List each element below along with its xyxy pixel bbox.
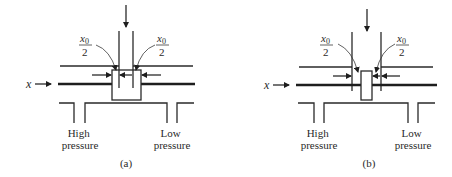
svg-text:x0: x0	[320, 32, 330, 46]
caption-a: (a)	[120, 157, 133, 170]
svg-text:2: 2	[323, 46, 329, 58]
svg-text:x0: x0	[79, 32, 89, 46]
leader-curve-right	[376, 44, 395, 72]
caption-b: (b)	[363, 157, 376, 170]
leader-curve-left	[338, 44, 358, 72]
opening-label-left: x0 2	[320, 32, 333, 58]
spool-land	[361, 71, 372, 100]
low-pressure-label: Low pressure	[154, 127, 191, 151]
panel-a: x x0 2 x0 2 High pressure Low pressure (…	[25, 5, 195, 170]
panel-b: x x0 2 x0 2 High pressure Low pressure (…	[263, 9, 437, 170]
housing-bottom-right-segment	[177, 103, 194, 123]
input-x-label: x	[25, 77, 32, 91]
housing-bottom-left-segment	[298, 103, 314, 123]
opening-label-right: x0 2	[156, 32, 169, 58]
low-pressure-label: Low pressure	[395, 127, 432, 151]
valve-diagram-figure: x x0 2 x0 2 High pressure Low pressure (…	[0, 0, 452, 177]
housing-bottom-center-segment	[85, 103, 167, 123]
svg-text:x0: x0	[396, 32, 406, 46]
housing-bottom-center-segment	[324, 103, 408, 123]
opening-label-left: x0 2	[79, 32, 92, 58]
housing-bottom-right-segment	[418, 103, 435, 123]
high-pressure-label: High pressure	[301, 127, 338, 151]
high-pressure-label: High pressure	[62, 127, 99, 151]
svg-text:2: 2	[159, 46, 165, 58]
input-x-label: x	[263, 78, 270, 92]
housing-bottom-left-segment	[59, 103, 74, 123]
svg-text:x0: x0	[156, 32, 166, 46]
opening-label-right: x0 2	[396, 32, 409, 58]
svg-text:2: 2	[82, 46, 88, 58]
svg-text:2: 2	[399, 46, 405, 58]
